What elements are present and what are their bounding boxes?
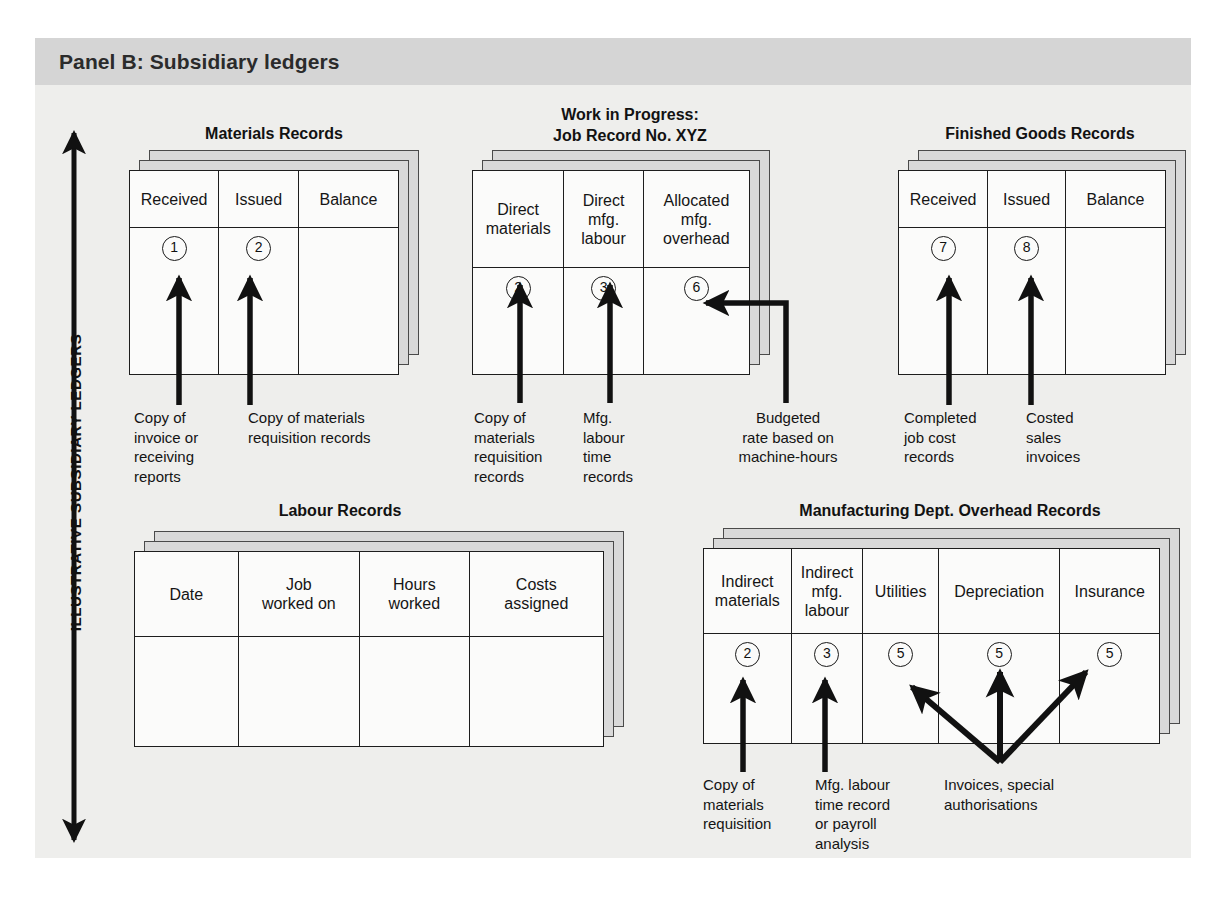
caption-finished-goods-received: Completedjob costrecords — [904, 408, 1009, 467]
materials-records-card: Received Issued Balance 1 2 — [129, 170, 399, 375]
wip-entry-allocated-mfg-overhead: 6 — [644, 268, 749, 374]
labour-col-job-worked-on: Jobworked on — [239, 552, 360, 636]
circled-number-5: 5 — [888, 642, 913, 667]
materials-entry-balance — [299, 228, 398, 374]
finished-goods-entry-received: 7 — [899, 228, 988, 374]
labour-entry-job-worked-on — [239, 637, 360, 746]
labour-entry-hours-worked — [360, 637, 470, 746]
materials-col-issued: Issued — [219, 171, 298, 227]
labour-records-card: Date Jobworked on Hoursworked Costsassig… — [134, 551, 604, 747]
illustrative-subsidiary-ledgers-label: ILLUSTRATIVE SUBSIDIARY LEDGERS — [67, 323, 84, 643]
materials-body-row: 1 2 — [130, 228, 398, 374]
finished-goods-records-title: Finished Goods Records — [890, 123, 1190, 144]
finished-goods-body-row: 7 8 — [899, 228, 1165, 374]
overhead-records-card: Indirectmaterials Indirectmfg.labour Uti… — [703, 548, 1160, 744]
circled-number-6: 6 — [684, 276, 709, 301]
labour-body-row — [135, 637, 603, 746]
wip-col-direct-materials: Directmaterials — [473, 171, 564, 267]
materials-records-stack: Received Issued Balance 1 2 — [129, 150, 419, 375]
materials-entry-received: 1 — [130, 228, 219, 374]
caption-overhead-indirect-mfg-labour: Mfg. labourtime recordor payrollanalysis — [815, 775, 933, 853]
circled-number-3: 3 — [591, 276, 616, 301]
circled-number-1: 1 — [162, 236, 187, 261]
overhead-col-indirect-mfg-labour: Indirectmfg.labour — [792, 549, 864, 633]
circled-number-5: 5 — [987, 642, 1012, 667]
overhead-col-indirect-materials: Indirectmaterials — [704, 549, 792, 633]
labour-records-title: Labour Records — [190, 500, 490, 521]
caption-wip-budgeted-rate: Budgetedrate based onmachine-hours — [690, 408, 886, 467]
wip-entry-direct-mfg-labour: 3 — [564, 268, 643, 374]
finished-goods-col-balance: Balance — [1066, 171, 1165, 227]
wip-col-direct-mfg-labour: Directmfg.labour — [564, 171, 643, 267]
labour-entry-costs-assigned — [470, 637, 603, 746]
overhead-body-row: 2 3 5 5 5 — [704, 634, 1159, 743]
caption-materials-issued: Copy of materialsrequisition records — [248, 408, 428, 447]
materials-col-received: Received — [130, 171, 219, 227]
wip-entry-direct-materials: 2 — [473, 268, 564, 374]
labour-entry-date — [135, 637, 239, 746]
materials-records-title: Materials Records — [124, 123, 424, 144]
circled-number-2: 2 — [506, 276, 531, 301]
caption-wip-direct-materials: Copy ofmaterialsrequisitionrecords — [474, 408, 572, 486]
circled-number-7: 7 — [931, 236, 956, 261]
caption-overhead-invoices-authorisations: Invoices, specialauthorisations — [944, 775, 1124, 814]
overhead-entry-utilities: 5 — [863, 634, 939, 743]
wip-records-card: Directmaterials Directmfg.labour Allocat… — [472, 170, 750, 375]
wip-col-allocated-mfg-overhead: Allocatedmfg.overhead — [644, 171, 749, 267]
circled-number-8: 8 — [1014, 236, 1039, 261]
wip-records-stack: Directmaterials Directmfg.labour Allocat… — [472, 150, 772, 375]
labour-col-hours-worked: Hoursworked — [360, 552, 470, 636]
caption-wip-direct-mfg-labour: Mfg.labourtimerecords — [583, 408, 675, 486]
finished-goods-col-received: Received — [899, 171, 988, 227]
materials-entry-issued: 2 — [219, 228, 298, 374]
caption-overhead-indirect-materials: Copy ofmaterialsrequisition — [703, 775, 807, 834]
overhead-col-insurance: Insurance — [1060, 549, 1159, 633]
circled-number-3: 3 — [814, 642, 839, 667]
finished-goods-stack: Received Issued Balance 7 8 — [898, 150, 1190, 375]
finished-goods-card: Received Issued Balance 7 8 — [898, 170, 1166, 375]
diagram-stage: Panel B: Subsidiary ledgers ILLUSTRATIVE… — [0, 0, 1223, 901]
wip-title-line2: Job Record No. XYZ — [470, 125, 790, 146]
panel-title: Panel B: Subsidiary ledgers — [59, 50, 339, 74]
overhead-col-utilities: Utilities — [863, 549, 939, 633]
wip-body-row: 2 3 6 — [473, 268, 749, 374]
overhead-entry-indirect-mfg-labour: 3 — [792, 634, 864, 743]
wip-title-line1: Work in Progress: — [470, 104, 790, 125]
labour-col-date: Date — [135, 552, 239, 636]
labour-col-costs-assigned: Costsassigned — [470, 552, 603, 636]
overhead-records-stack: Indirectmaterials Indirectmfg.labour Uti… — [703, 528, 1190, 744]
circled-number-5: 5 — [1097, 642, 1122, 667]
work-in-progress-title: Work in Progress: Job Record No. XYZ — [470, 104, 790, 146]
finished-goods-header-row: Received Issued Balance — [899, 171, 1165, 228]
finished-goods-col-issued: Issued — [988, 171, 1065, 227]
caption-finished-goods-issued: Costedsalesinvoices — [1026, 408, 1122, 467]
circled-number-2: 2 — [735, 642, 760, 667]
materials-col-balance: Balance — [299, 171, 398, 227]
overhead-entry-insurance: 5 — [1060, 634, 1159, 743]
overhead-entry-indirect-materials: 2 — [704, 634, 792, 743]
labour-records-stack: Date Jobworked on Hoursworked Costsassig… — [134, 531, 634, 747]
overhead-col-depreciation: Depreciation — [939, 549, 1060, 633]
finished-goods-entry-balance — [1066, 228, 1165, 374]
materials-header-row: Received Issued Balance — [130, 171, 398, 228]
wip-header-row: Directmaterials Directmfg.labour Allocat… — [473, 171, 749, 268]
overhead-header-row: Indirectmaterials Indirectmfg.labour Uti… — [704, 549, 1159, 634]
caption-materials-received: Copy ofinvoice orreceivingreports — [134, 408, 249, 486]
labour-header-row: Date Jobworked on Hoursworked Costsassig… — [135, 552, 603, 637]
overhead-entry-depreciation: 5 — [939, 634, 1060, 743]
finished-goods-entry-issued: 8 — [988, 228, 1065, 374]
circled-number-2: 2 — [246, 236, 271, 261]
overhead-records-title: Manufacturing Dept. Overhead Records — [700, 500, 1200, 521]
